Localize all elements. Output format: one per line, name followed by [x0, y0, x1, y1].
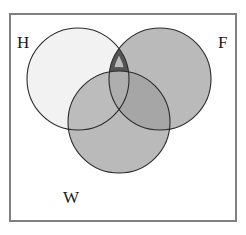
venn-diagram-figure: H F W	[0, 0, 246, 235]
venn-diagram-canvas: H F W	[0, 0, 246, 235]
set-label-f: F	[218, 33, 227, 52]
set-label-h: H	[17, 33, 29, 52]
set-label-w: W	[63, 188, 80, 207]
